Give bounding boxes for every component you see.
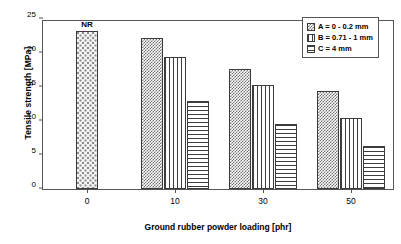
y-tick-label: 20	[27, 44, 36, 53]
y-tick	[39, 154, 43, 155]
legend-item-c: C = 4 mm	[307, 43, 373, 54]
x-tick	[87, 189, 88, 193]
x-tick-label: 50	[346, 196, 355, 206]
x-tick	[351, 189, 352, 193]
x-tick	[263, 189, 264, 193]
bar-reference-nr: NR	[76, 31, 98, 189]
x-axis-title: Ground rubber powder loading [phr]	[42, 222, 394, 232]
legend-label-c: C = 4 mm	[318, 44, 352, 53]
bar-30-series-b	[252, 85, 274, 189]
bar-50-series-a	[317, 91, 339, 189]
legend-label-b: B = 0.71 - 1 mm	[318, 33, 373, 42]
legend-swatch-b-icon	[307, 34, 315, 42]
legend-swatch-a-icon	[307, 23, 315, 31]
x-tick-label: 0	[85, 196, 90, 206]
x-tick-label: 30	[258, 196, 267, 206]
y-tick-label: 5	[32, 146, 36, 155]
y-tick	[39, 120, 43, 121]
bar-label-nr: NR	[81, 20, 93, 29]
bar-chart: Tensile strength [MPa] 0510152025 010305…	[0, 0, 401, 244]
bar-10-series-c	[187, 101, 209, 189]
bar-50-series-b	[340, 118, 362, 189]
legend-label-a: A = 0 - 0.2 mm	[318, 22, 368, 31]
y-tick-label: 0	[32, 180, 36, 189]
y-tick-label: 25	[27, 10, 36, 19]
y-tick-label: 10	[27, 112, 36, 121]
bar-10-series-b	[164, 57, 186, 189]
y-tick-label: 15	[27, 78, 36, 87]
y-tick	[39, 52, 43, 53]
legend-swatch-c-icon	[307, 45, 315, 53]
x-tick-label: 10	[170, 196, 179, 206]
bar-30-series-a	[229, 69, 251, 189]
legend-item-b: B = 0.71 - 1 mm	[307, 32, 373, 43]
y-tick	[39, 188, 43, 189]
legend: A = 0 - 0.2 mm B = 0.71 - 1 mm C = 4 mm	[302, 17, 379, 58]
legend-item-a: A = 0 - 0.2 mm	[307, 21, 373, 32]
y-tick	[39, 18, 43, 19]
bar-10-series-a	[141, 38, 163, 189]
y-tick	[39, 86, 43, 87]
x-tick	[175, 189, 176, 193]
bar-30-series-c	[275, 124, 297, 189]
bar-50-series-c	[363, 146, 385, 189]
